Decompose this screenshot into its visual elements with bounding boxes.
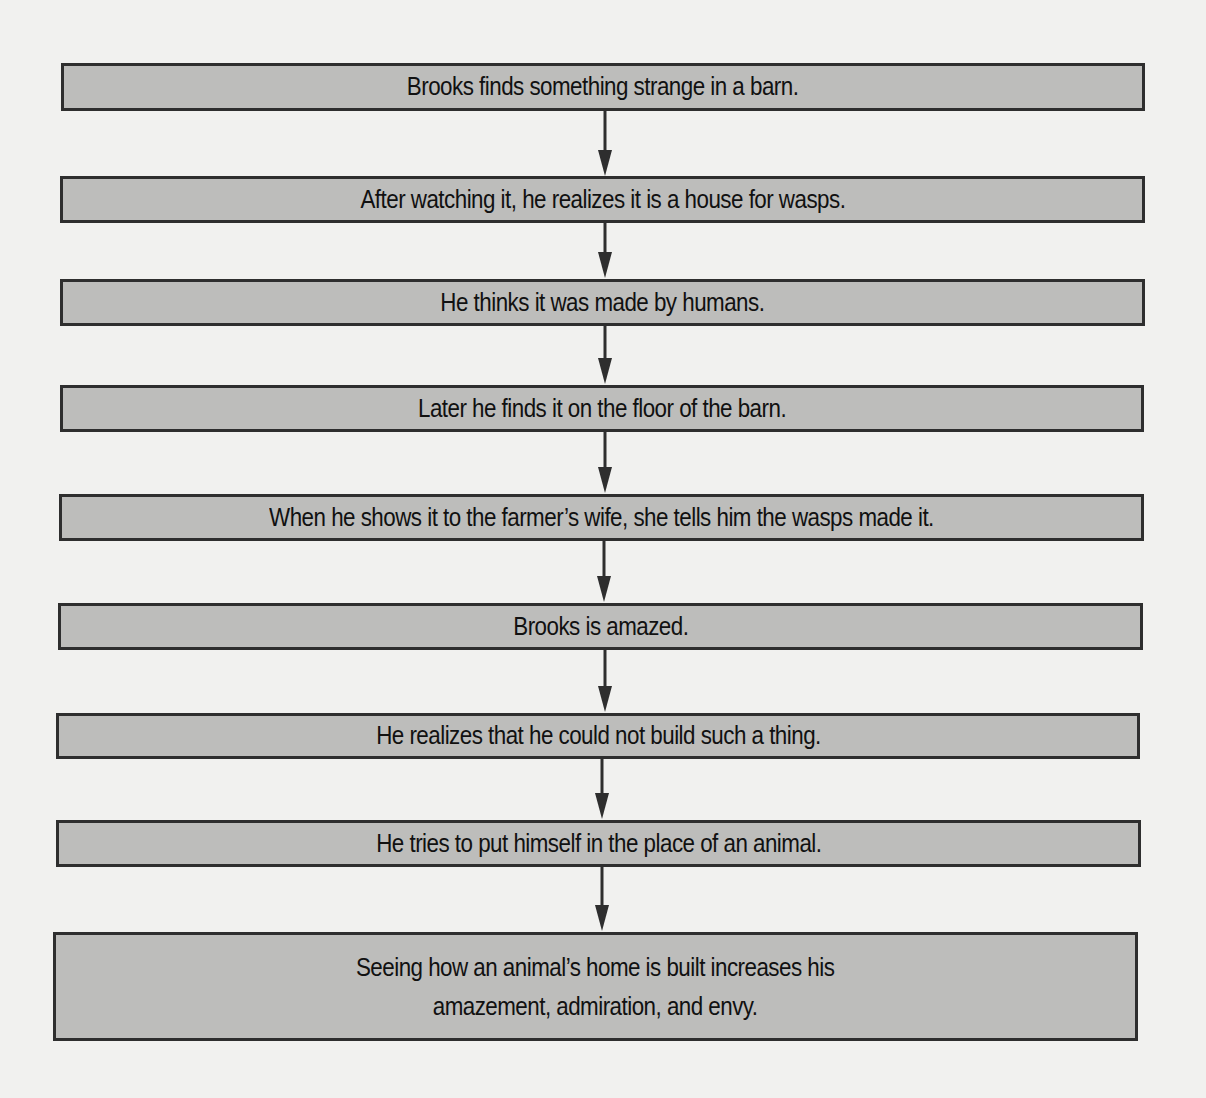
- flow-step-8-text: He tries to put himself in the place of …: [376, 827, 821, 861]
- flow-step-6-text: Brooks is amazed.: [513, 610, 688, 644]
- flow-step-5-text: When he shows it to the farmer’s wife, s…: [269, 501, 934, 535]
- flow-step-6: Brooks is amazed.: [58, 603, 1143, 650]
- flow-step-4: Later he finds it on the floor of the ba…: [60, 385, 1144, 432]
- flow-step-8: He tries to put himself in the place of …: [56, 820, 1141, 867]
- flow-step-1: Brooks finds something strange in a barn…: [61, 63, 1145, 111]
- flow-step-2-text: After watching it, he realizes it is a h…: [360, 183, 845, 217]
- flow-step-7: He realizes that he could not build such…: [56, 713, 1140, 759]
- flow-step-7-text: He realizes that he could not build such…: [376, 719, 821, 753]
- flow-step-3: He thinks it was made by humans.: [60, 279, 1145, 326]
- flowchart: Brooks finds something strange in a barn…: [0, 0, 1206, 1098]
- flow-step-1-text: Brooks finds something strange in a barn…: [407, 70, 799, 104]
- flow-step-3-text: He thinks it was made by humans.: [440, 286, 764, 320]
- arrow-down-icon: [594, 540, 614, 604]
- flow-step-4-text: Later he finds it on the floor of the ba…: [418, 392, 786, 426]
- flow-step-9: Seeing how an animal’s home is built inc…: [53, 932, 1138, 1041]
- arrow-down-icon: [595, 649, 615, 714]
- arrow-down-icon: [595, 110, 615, 178]
- arrow-down-icon: [592, 866, 612, 933]
- flow-step-5: When he shows it to the farmer’s wife, s…: [59, 494, 1144, 541]
- flow-step-9-text: Seeing how an animal’s home is built inc…: [356, 948, 834, 1026]
- arrow-down-icon: [595, 431, 615, 495]
- arrow-down-icon: [595, 222, 615, 280]
- arrow-down-icon: [592, 758, 612, 821]
- flow-step-2: After watching it, he realizes it is a h…: [60, 176, 1145, 223]
- arrow-down-icon: [595, 325, 615, 386]
